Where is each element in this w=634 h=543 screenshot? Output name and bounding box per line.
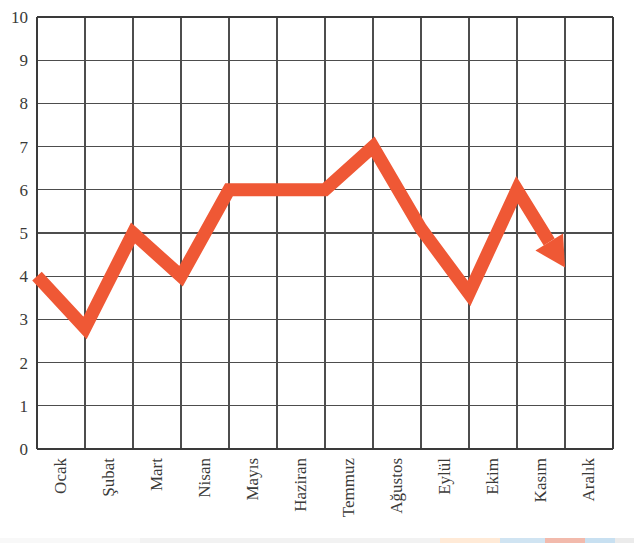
y-tick-label-9: 9	[20, 51, 29, 70]
x-axis-tick-labels: OcakŞubatMartNisanMayısHaziranTemmuzAğus…	[51, 458, 598, 518]
y-tick-label-2: 2	[20, 354, 29, 373]
chart-canvas: 012345678910 OcakŞubatMartNisanMayısHazi…	[0, 0, 634, 543]
x-tick-label-11: Aralık	[579, 458, 598, 502]
y-tick-label-3: 3	[20, 310, 29, 329]
y-tick-label-6: 6	[20, 181, 29, 200]
strip-segment-5	[585, 538, 615, 543]
y-tick-label-10: 10	[11, 8, 28, 27]
y-axis-tick-labels: 012345678910	[11, 8, 29, 459]
scan-artifact-color-strip	[0, 538, 634, 543]
x-tick-label-4: Mayıs	[243, 458, 262, 501]
y-tick-label-8: 8	[20, 94, 29, 113]
x-tick-label-0: Ocak	[51, 458, 70, 494]
strip-segment-2	[440, 538, 500, 543]
y-tick-label-0: 0	[20, 440, 29, 459]
strip-segment-3	[500, 538, 545, 543]
x-tick-label-7: Ağustos	[387, 458, 406, 514]
strip-segment-6	[615, 538, 634, 543]
x-tick-label-5: Haziran	[291, 458, 310, 512]
line-chart: 012345678910 OcakŞubatMartNisanMayısHazi…	[0, 0, 634, 543]
x-tick-label-10: Kasım	[531, 458, 550, 502]
x-tick-label-9: Ekim	[483, 458, 502, 495]
x-tick-label-2: Mart	[147, 458, 166, 491]
strip-segment-0	[0, 538, 140, 543]
y-tick-label-1: 1	[20, 397, 29, 416]
x-tick-label-6: Temmuz	[339, 458, 358, 518]
x-tick-label-8: Eylül	[435, 458, 454, 495]
y-tick-label-4: 4	[20, 267, 29, 286]
y-tick-label-7: 7	[20, 138, 29, 157]
strip-segment-4	[545, 538, 585, 543]
x-tick-label-1: Şubat	[99, 458, 118, 497]
x-tick-label-3: Nisan	[195, 458, 214, 498]
strip-segment-1	[140, 538, 440, 543]
y-tick-label-5: 5	[20, 224, 29, 243]
